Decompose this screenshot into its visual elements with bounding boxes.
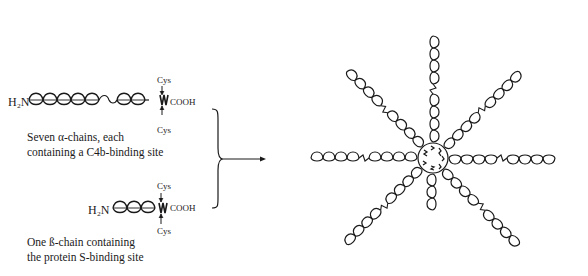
alpha-arm-northwest	[345, 67, 426, 148]
alpha-arm-east	[449, 155, 555, 164]
diagram-canvas	[0, 0, 588, 276]
alpha-arm-west	[311, 152, 417, 161]
alpha-arm-southwest	[342, 165, 423, 246]
alpha-arm-northeast	[442, 70, 523, 151]
alpha-arm-southeast	[440, 167, 521, 248]
beta-disulfide-zigzag	[159, 193, 167, 224]
alpha-arm-north	[430, 36, 439, 142]
c4bp-assembly	[311, 36, 555, 249]
alpha-chain-domains	[29, 93, 149, 104]
brace-arrow-connector	[212, 109, 266, 208]
beta-chain-domains	[113, 201, 155, 212]
alpha-disulfide-zigzag	[160, 86, 168, 115]
beta-arm-south	[427, 174, 436, 210]
